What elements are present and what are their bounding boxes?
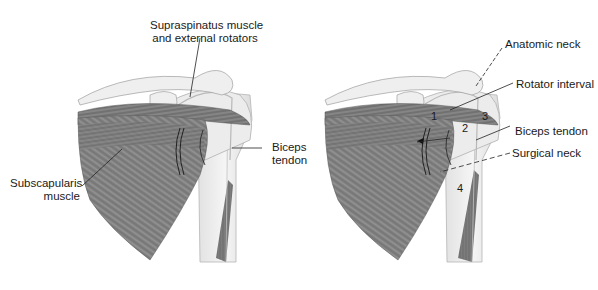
right-shoulder-drawing xyxy=(325,70,500,262)
label-supraspinatus-line1: Supraspinatus muscle xyxy=(150,19,260,32)
label-supraspinatus: Supraspinatus muscle and external rotato… xyxy=(150,19,260,45)
label-biceps-left-line1: Biceps xyxy=(272,141,307,154)
region-number-2: 2 xyxy=(462,122,468,134)
label-subscapularis: Subscapularis muscle xyxy=(10,177,80,203)
region-number-1: 1 xyxy=(431,110,437,122)
label-biceps-left-line2: tendon xyxy=(272,154,307,167)
left-shoulder-drawing xyxy=(78,70,252,262)
label-subscapularis-line2: muscle xyxy=(10,190,80,203)
region-number-4: 4 xyxy=(457,182,463,194)
label-anatomic-neck: Anatomic neck xyxy=(505,38,580,51)
label-surgical-neck: Surgical neck xyxy=(512,147,581,160)
label-supraspinatus-line2: and external rotators xyxy=(150,32,260,45)
label-rotator-interval: Rotator interval xyxy=(516,78,594,91)
label-biceps-left: Biceps tendon xyxy=(272,141,307,167)
label-subscapularis-line1: Subscapularis xyxy=(10,177,80,190)
label-biceps-tendon-right: Biceps tendon xyxy=(515,125,588,138)
region-number-3: 3 xyxy=(482,110,488,122)
